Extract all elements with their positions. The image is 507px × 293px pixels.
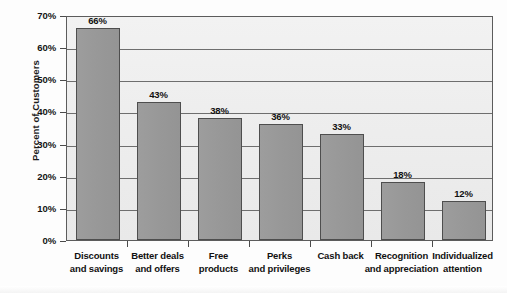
bar-slot: 43% (128, 17, 189, 240)
plot-area: 66%43%38%36%33%18%12% (66, 16, 493, 241)
bar-value-label: 12% (454, 188, 473, 199)
y-axis-tick-label: 70% (10, 10, 56, 21)
bar[interactable] (137, 102, 181, 240)
bar-slot: 66% (67, 17, 128, 240)
bar[interactable] (259, 124, 303, 240)
bar-value-label: 33% (332, 121, 351, 132)
bar[interactable] (320, 134, 364, 240)
bar[interactable] (442, 201, 486, 240)
bar[interactable] (198, 118, 242, 240)
x-axis-tick-mark (432, 241, 433, 247)
x-axis-tick-mark (188, 241, 189, 247)
y-axis-tick-label: 40% (10, 106, 56, 117)
category-label-line: attention (424, 263, 501, 276)
y-axis-tick-mark (60, 241, 66, 242)
y-axis-tick-label: 0% (10, 235, 56, 246)
bar-slot: 36% (250, 17, 311, 240)
bar-value-label: 43% (149, 89, 168, 100)
y-axis-tick-label: 20% (10, 171, 56, 182)
bar-slot: 38% (189, 17, 250, 240)
bar[interactable] (381, 182, 425, 240)
category-label-line: Individualized (424, 250, 501, 263)
x-axis-tick-mark (371, 241, 372, 247)
bar[interactable] (76, 28, 120, 240)
bar-slot: 12% (433, 17, 494, 240)
y-axis-tick-label: 60% (10, 42, 56, 53)
bar-value-label: 18% (393, 169, 412, 180)
category-label-line: and privileges (241, 263, 318, 276)
y-axis-tick-label: 30% (10, 139, 56, 150)
x-axis-tick-mark (127, 241, 128, 247)
y-axis-tick-label: 50% (10, 74, 56, 85)
x-axis-tick-mark (310, 241, 311, 247)
bar-slot: 18% (372, 17, 433, 240)
x-axis-category-label: Individualizedattention (424, 250, 501, 275)
bar-slot: 33% (311, 17, 372, 240)
y-axis-tick-label: 10% (10, 203, 56, 214)
bar-value-label: 38% (210, 105, 229, 116)
x-axis-tick-mark (249, 241, 250, 247)
bar-value-label: 66% (88, 15, 107, 26)
bar-chart: Percent of Customers 70%60%50%40%30%20%1… (0, 0, 507, 293)
page-edge-shadow (0, 286, 507, 293)
bar-value-label: 36% (271, 111, 290, 122)
